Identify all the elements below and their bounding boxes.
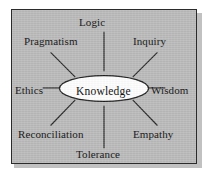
node-label-logic: Logic (79, 16, 105, 28)
node-label-wisdom: Wisdom (151, 84, 188, 96)
node-label-tolerance: Tolerance (76, 148, 120, 160)
node-label-ethics: Ethics (15, 84, 43, 96)
node-label-empathy: Empathy (133, 128, 173, 140)
spoke-line-pragmatism (51, 52, 76, 77)
diagram-canvas: Knowledge Logic Inquiry Wisdom Empathy T… (0, 0, 211, 179)
spoke-line-empathy (133, 100, 158, 126)
node-label-pragmatism: Pragmatism (24, 35, 78, 47)
spoke-line-reconciliation (51, 100, 76, 126)
node-label-reconciliation: Reconciliation (18, 128, 84, 140)
hub-label-knowledge: Knowledge (76, 85, 131, 97)
spoke-line-inquiry (133, 52, 158, 77)
node-label-inquiry: Inquiry (133, 35, 166, 47)
